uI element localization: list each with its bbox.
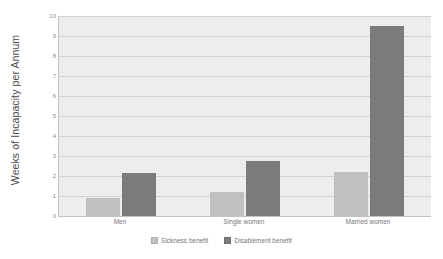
y-axis-title: Weeks of Incapacity per Annum — [0, 0, 30, 220]
bar-chart: Weeks of Incapacity per Annum 0123456789… — [0, 0, 443, 259]
y-axis-tick-label: 1 — [36, 193, 56, 199]
legend-swatch-icon — [151, 237, 158, 244]
bar — [122, 173, 156, 216]
x-axis-category-label: Single women — [224, 218, 265, 225]
legend-label: Disablement benefit — [234, 237, 291, 244]
bar — [86, 198, 120, 216]
bar-group — [307, 16, 431, 216]
y-axis-tick-label: 5 — [36, 113, 56, 119]
legend-item[interactable]: Sickness benefit — [151, 237, 208, 244]
y-axis-tick-label: 9 — [36, 33, 56, 39]
legend-label: Sickness benefit — [161, 237, 208, 244]
y-axis-tick-label: 6 — [36, 93, 56, 99]
y-axis-tick-label: 4 — [36, 133, 56, 139]
bar — [370, 26, 404, 216]
y-axis-title-text: Weeks of Incapacity per Annum — [9, 35, 21, 185]
bar — [334, 172, 368, 216]
y-axis-tick-label: 8 — [36, 53, 56, 59]
y-axis-tick-label: 2 — [36, 173, 56, 179]
y-axis-tick-label: 0 — [36, 213, 56, 219]
x-axis-category-labels: MenSingle womenMarried women — [58, 218, 430, 232]
bars-layer — [59, 16, 431, 216]
legend-swatch-icon — [224, 237, 231, 244]
chart-legend: Sickness benefitDisablement benefit — [0, 237, 443, 244]
x-axis-category-label: Married women — [346, 218, 391, 225]
bar-group — [59, 16, 183, 216]
y-axis-tick-label: 10 — [36, 13, 56, 19]
bar-group — [183, 16, 307, 216]
bar — [210, 192, 244, 216]
x-axis-category-label: Men — [114, 218, 127, 225]
y-axis-tick-label: 3 — [36, 153, 56, 159]
legend-item[interactable]: Disablement benefit — [224, 237, 291, 244]
bar — [246, 161, 280, 216]
y-axis-tick-labels: 012345678910 — [36, 16, 56, 216]
y-axis-tick-label: 7 — [36, 73, 56, 79]
plot-area — [58, 16, 431, 217]
